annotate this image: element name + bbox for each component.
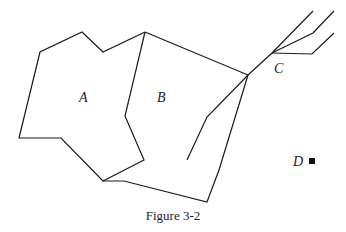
inner-spur-line [187,75,248,160]
point-d-marker [309,158,315,164]
figure-diagram [0,0,346,232]
figure-caption: Figure 3-2 [0,208,346,224]
label-c: C [274,62,283,76]
region-b-boundary [103,32,248,202]
label-a: A [79,91,88,105]
region-a-boundary [19,32,145,181]
label-b: B [157,91,166,105]
label-d: D [293,155,303,169]
branch-c-middle [272,11,334,53]
